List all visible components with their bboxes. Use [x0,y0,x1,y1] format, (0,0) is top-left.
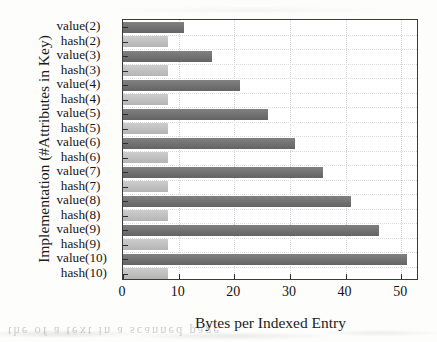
y-tick-mark [123,187,128,188]
bar-value-6 [123,138,295,149]
y-tick-label-name: hash [33,237,85,252]
x-axis-title: Bytes per Indexed Entry [122,314,419,332]
y-tick-label-name: hash [33,121,85,136]
bar-hash-6 [123,152,168,163]
y-tick-label-count: (9) [85,222,118,237]
grid-line-vertical [234,20,235,279]
y-tick-label-name: hash [33,266,85,281]
y-tick-mark [123,71,128,72]
y-tick-mark [123,129,128,130]
y-tick-mark [123,143,128,144]
bar-hash-7 [123,181,168,192]
bar-hash-10 [123,268,168,279]
bar-value-10 [123,254,407,265]
y-tick-label-count: (6) [85,135,118,150]
x-tick-mark [290,274,291,279]
bar-hash-4 [123,94,168,105]
x-tick-mark [401,274,402,279]
bar-value-4 [123,80,240,91]
y-tick-mark [123,158,128,159]
y-tick-label-name: value [33,164,85,179]
y-tick-label-count: (8) [85,208,118,223]
grid-line-vertical [346,20,347,279]
y-tick-label-name: value [33,19,85,34]
x-tick-label: 30 [282,284,296,300]
y-tick-label-count: (2) [85,34,118,49]
y-tick-label-name: value [33,106,85,121]
y-tick-label-name: hash [33,34,85,49]
bar-chart-figure: Implementation (#Attributes in Key) valu… [0,0,437,342]
y-tick-label-count: (4) [85,92,118,107]
y-tick-mark [123,42,128,43]
bar-hash-2 [123,36,168,47]
y-tick-mark [123,216,128,217]
y-tick-label-count: (7) [85,179,118,194]
y-tick-label-name: value [33,222,85,237]
grid-line-vertical [290,20,291,279]
x-tick-label: 20 [226,284,240,300]
y-tick-mark [123,56,128,57]
x-tick-label: 10 [171,284,185,300]
bar-hash-5 [123,123,168,134]
y-tick-label-name: value [33,135,85,150]
y-tick-mark [123,259,128,260]
bar-value-3 [123,51,212,62]
y-tick-label-name: value [33,251,85,266]
y-tick-label-name: hash [33,150,85,165]
grid-line-vertical [401,20,402,279]
y-tick-label-name: value [33,77,85,92]
y-tick-mark [123,172,128,173]
x-tick-mark [234,274,235,279]
y-tick-label-count: (5) [85,121,118,136]
y-tick-mark [123,100,128,101]
bar-hash-3 [123,65,168,76]
y-tick-label-count: (2) [85,19,118,34]
bar-value-7 [123,167,323,178]
y-tick-mark [123,245,128,246]
y-tick-mark [123,85,128,86]
y-tick-label-count: (8) [85,193,118,208]
x-axis-tick-labels: 01020304050 [122,284,418,304]
y-tick-mark [123,27,128,28]
y-tick-mark [123,230,128,231]
x-tick-mark [346,274,347,279]
bar-value-9 [123,225,379,236]
y-tick-label-count: (10) [85,251,118,266]
y-tick-label-name: value [33,48,85,63]
x-tick-mark [123,274,124,279]
y-tick-label-count: (6) [85,150,118,165]
y-axis-tick-labels: value(2)hash(2)value(3)hash(3)value(4)ha… [0,19,118,280]
y-tick-mark [123,114,128,115]
bar-value-5 [123,109,268,120]
y-tick-label-name: value [33,193,85,208]
bar-hash-9 [123,239,168,250]
y-tick-label-count: (3) [85,48,118,63]
bar-hash-8 [123,210,168,221]
y-tick-label-name: hash [33,208,85,223]
bar-value-2 [123,22,184,33]
y-tick-mark [123,201,128,202]
x-tick-label: 0 [119,284,126,300]
x-tick-mark [179,274,180,279]
y-tick-label-count: (9) [85,237,118,252]
x-tick-label: 40 [338,284,352,300]
y-tick-label-name: hash [33,179,85,194]
x-tick-label: 50 [393,284,407,300]
y-tick-label-count: (4) [85,77,118,92]
y-tick-label-name: hash [33,92,85,107]
y-tick-label-count: (5) [85,106,118,121]
y-tick-label-count: (10) [85,266,118,281]
bar-value-8 [123,196,351,207]
y-tick-label-count: (7) [85,164,118,179]
plot-area [122,19,418,280]
y-tick-label-count: (3) [85,63,118,78]
y-tick-label-name: hash [33,63,85,78]
